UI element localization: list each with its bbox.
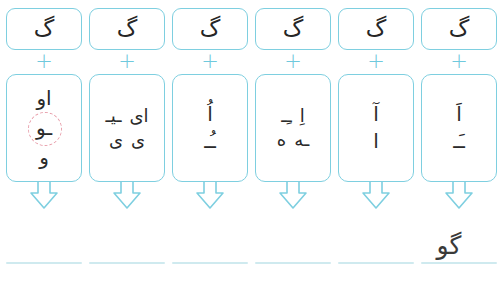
vowel-glyph: ی bbox=[109, 128, 123, 152]
arrow-down-icon bbox=[193, 182, 227, 212]
consonant-box-4[interactable]: گ bbox=[172, 8, 248, 50]
consonant-box-3[interactable]: گ bbox=[255, 8, 331, 50]
consonant-glyph: گ bbox=[117, 17, 138, 40]
arrow-slot-4 bbox=[172, 182, 248, 212]
consonant-glyph: گ bbox=[283, 17, 304, 40]
answer-line-6[interactable] bbox=[6, 262, 82, 264]
consonant-glyph: گ bbox=[34, 17, 55, 40]
consonant-glyph: گ bbox=[200, 17, 221, 40]
column-grid: گ + اَ ـَـ گ bbox=[6, 8, 497, 220]
syllable-column-6: گ + او ـو و bbox=[6, 8, 82, 212]
vowel-box-2[interactable]: آ ا bbox=[338, 74, 414, 182]
plus-slot-3: + bbox=[284, 50, 302, 74]
answer-line-4[interactable] bbox=[172, 262, 248, 264]
vowel-box-4[interactable]: اُ ـُـ bbox=[172, 74, 248, 182]
syllable-column-5: گ + ای ـیـ ی ی bbox=[89, 8, 165, 212]
plus-slot-5: + bbox=[118, 50, 136, 74]
plus-slot-4: + bbox=[201, 50, 219, 74]
plus-slot-1: + bbox=[450, 50, 468, 74]
consonant-box-2[interactable]: گ bbox=[338, 8, 414, 50]
worksheet-canvas: گ + اَ ـَـ گ bbox=[0, 0, 503, 286]
vowel-row: ی ی bbox=[92, 128, 162, 152]
vowel-glyph: ه bbox=[277, 128, 286, 152]
answer-line-5[interactable] bbox=[89, 262, 165, 264]
arrow-down-icon bbox=[359, 182, 393, 212]
vowel-glyph: ـُـ bbox=[204, 128, 216, 155]
vowel-row: ـَـ bbox=[424, 128, 494, 155]
vowel-row: ـه ه bbox=[258, 128, 328, 152]
plus-icon: + bbox=[367, 51, 385, 72]
vowel-row: آ bbox=[341, 101, 411, 128]
syllable-column-1: گ + اَ ـَـ bbox=[421, 8, 497, 212]
vowel-row: ا bbox=[341, 128, 411, 155]
answer-word-6: گو bbox=[409, 233, 489, 258]
syllable-column-4: گ + اُ ـُـ bbox=[172, 8, 248, 212]
vowel-row: اُ bbox=[175, 101, 245, 128]
vowel-row: ای ـیـ bbox=[92, 104, 162, 128]
vowel-glyph: ای bbox=[129, 104, 148, 128]
vowel-box-1[interactable]: اَ ـَـ bbox=[421, 74, 497, 182]
syllable-column-3: گ + اِ ـِـ ـه ه bbox=[255, 8, 331, 212]
answer-line-row bbox=[6, 262, 497, 266]
arrow-down-icon bbox=[442, 182, 476, 212]
plus-icon: + bbox=[35, 51, 53, 72]
vowel-glyph: ی bbox=[131, 128, 145, 152]
arrow-down-icon bbox=[27, 182, 61, 212]
consonant-box-1[interactable]: گ bbox=[421, 8, 497, 50]
vowel-row-highlighted: ـو bbox=[9, 112, 79, 144]
highlighted-vowel-glyph[interactable]: ـو bbox=[28, 112, 60, 144]
arrow-slot-2 bbox=[338, 182, 414, 212]
vowel-glyph: آ bbox=[373, 101, 379, 128]
vowel-box-3[interactable]: اِ ـِـ ـه ه bbox=[255, 74, 331, 182]
answer-line-1[interactable] bbox=[421, 262, 497, 264]
vowel-row: اَ bbox=[424, 101, 494, 128]
plus-icon: + bbox=[284, 51, 302, 72]
arrow-down-icon bbox=[110, 182, 144, 212]
vowel-glyph: ـه bbox=[294, 128, 309, 152]
plus-icon: + bbox=[450, 51, 468, 72]
arrow-slot-3 bbox=[255, 182, 331, 212]
vowel-glyph: او bbox=[36, 85, 51, 112]
answer-line-3[interactable] bbox=[255, 262, 331, 264]
consonant-glyph: گ bbox=[366, 17, 387, 40]
answer-line-2[interactable] bbox=[338, 262, 414, 264]
vowel-glyph: ـیـ bbox=[105, 104, 121, 128]
vowel-glyph: ـِـ bbox=[281, 104, 292, 128]
plus-icon: + bbox=[201, 51, 219, 72]
arrow-slot-1 bbox=[421, 182, 497, 212]
consonant-glyph: گ bbox=[449, 17, 470, 40]
vowel-glyph: اِ bbox=[300, 104, 305, 128]
arrow-slot-6 bbox=[6, 182, 82, 212]
vowel-glyph: اَ bbox=[456, 101, 462, 128]
vowel-row: او bbox=[9, 85, 79, 112]
vowel-box-5[interactable]: ای ـیـ ی ی bbox=[89, 74, 165, 182]
vowel-row: ـُـ bbox=[175, 128, 245, 155]
vowel-glyph: اُ bbox=[207, 101, 213, 128]
syllable-column-2: گ + آ ا bbox=[338, 8, 414, 212]
arrow-down-icon bbox=[276, 182, 310, 212]
vowel-glyph: و bbox=[39, 144, 49, 171]
vowel-row: اِ ـِـ bbox=[258, 104, 328, 128]
plus-slot-6: + bbox=[35, 50, 53, 74]
vowel-box-6[interactable]: او ـو و bbox=[6, 74, 82, 182]
plus-icon: + bbox=[118, 51, 136, 72]
consonant-box-6[interactable]: گ bbox=[6, 8, 82, 50]
arrow-slot-5 bbox=[89, 182, 165, 212]
vowel-glyph: ا bbox=[373, 128, 379, 155]
vowel-row: و bbox=[9, 144, 79, 171]
vowel-glyph: ـَـ bbox=[453, 128, 465, 155]
consonant-box-5[interactable]: گ bbox=[89, 8, 165, 50]
plus-slot-2: + bbox=[367, 50, 385, 74]
